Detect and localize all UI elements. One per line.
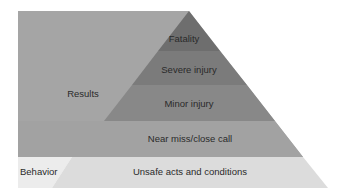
safety-pyramid-diagram: Fatality Severe injury Minor injury Near… (0, 0, 339, 196)
label-results: Results (67, 88, 99, 99)
label-near-miss: Near miss/close call (148, 133, 232, 144)
label-unsafe-acts: Unsafe acts and conditions (133, 166, 247, 177)
label-minor-injury: Minor injury (164, 98, 213, 109)
label-severe-injury: Severe injury (161, 64, 217, 75)
label-fatality: Fatality (169, 33, 200, 44)
label-behavior: Behavior (20, 166, 58, 177)
